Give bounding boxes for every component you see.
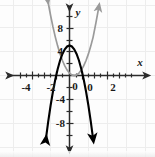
plot-background: [0, 0, 155, 157]
y-axis-label: y: [74, 6, 81, 18]
y-tick-label--8: -8: [56, 117, 66, 129]
graph-figure: -4 -2 0 0 2 8 4 -4 -8 x y: [0, 0, 155, 157]
x-tick-label--2: -2: [46, 81, 56, 93]
y-tick-label-8: 8: [58, 22, 64, 34]
y-tick-label--4: -4: [56, 93, 66, 105]
x-tick-label-2: 0: [87, 81, 93, 93]
x-axis-label: x: [136, 56, 143, 68]
x-tick-label-4: 2: [110, 81, 116, 93]
y-tick-label-4: 4: [58, 45, 64, 57]
x-tick-label--4: -4: [21, 81, 31, 93]
origin-label: 0: [72, 80, 78, 92]
coordinate-plane: -4 -2 0 0 2 8 4 -4 -8 x y: [0, 0, 155, 157]
page-edge-shadow: [0, 151, 155, 157]
